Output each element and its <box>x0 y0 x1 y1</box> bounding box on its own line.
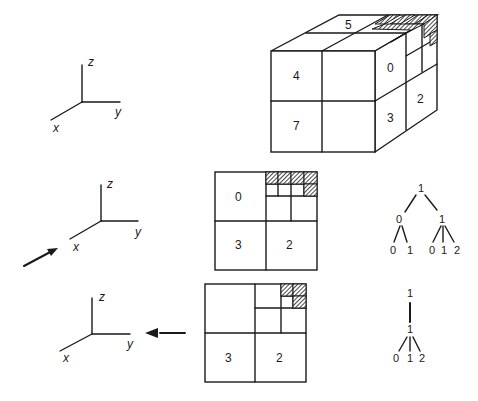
z-axis-label: z <box>87 55 94 69</box>
y-axis-label: y <box>134 225 142 239</box>
quadrant-label-3: 3 <box>235 238 242 252</box>
y-axis-label: y <box>126 337 134 351</box>
quadrant-label-2: 2 <box>276 351 283 365</box>
axes-middle: z y x <box>70 177 142 254</box>
tree-root-node: 1 <box>418 182 424 194</box>
tree-leaf: 0 <box>429 244 435 256</box>
tree-leaf: 0 <box>393 352 399 364</box>
tree-leaf: 1 <box>407 352 413 364</box>
octant-label-4: 4 <box>293 69 300 83</box>
tree-leaf: 2 <box>419 352 425 364</box>
tree-middle: 1 0 1 0 1 0 1 2 <box>390 182 460 256</box>
z-axis-label: z <box>106 177 113 191</box>
octant-label-0: 0 <box>387 61 394 75</box>
projection-arrow <box>145 328 185 338</box>
view-direction-arrow <box>24 248 58 266</box>
x-axis-label: x <box>72 240 80 254</box>
quadrant-label-3: 3 <box>225 351 232 365</box>
octree-cube: 5 4 7 0 3 2 <box>271 15 437 152</box>
octant-label-5: 5 <box>345 18 352 32</box>
tree-node-child: 1 <box>407 323 413 335</box>
tree-bottom: 1 1 0 1 2 <box>393 287 425 364</box>
octree-diagram: z y x 5 4 7 0 3 2 <box>0 0 478 401</box>
tree-node-right: 1 <box>439 213 445 225</box>
tree-leaf: 0 <box>390 244 396 256</box>
quadrant-label-2: 2 <box>286 238 293 252</box>
octant-label-2: 2 <box>417 92 424 106</box>
tree-node-left: 0 <box>396 213 402 225</box>
tree-root-node: 1 <box>407 287 413 299</box>
quadrant-label-0: 0 <box>235 190 242 204</box>
tree-leaf: 2 <box>454 244 460 256</box>
z-axis-label: z <box>98 290 105 304</box>
y-axis-label: y <box>114 105 122 119</box>
axes-top: z y x <box>51 55 122 135</box>
octant-label-7: 7 <box>293 119 300 133</box>
tree-leaf: 1 <box>441 244 447 256</box>
octant-label-3: 3 <box>387 111 394 125</box>
x-axis-label: x <box>52 121 60 135</box>
quadtree-middle: 0 3 2 <box>215 172 317 270</box>
x-axis-label: x <box>62 351 70 365</box>
tree-leaf: 1 <box>407 244 413 256</box>
quadtree-bottom: 3 2 <box>205 284 306 382</box>
axes-bottom: z y x <box>60 290 134 365</box>
